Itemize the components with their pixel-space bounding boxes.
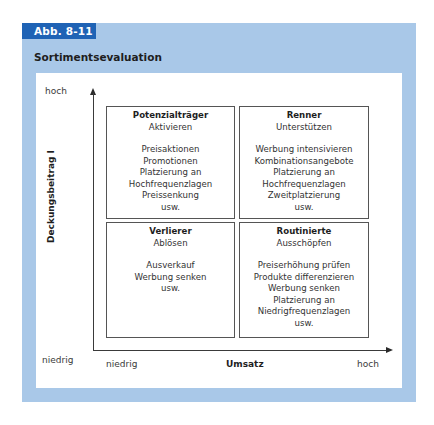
quadrant-item: Promotionen: [107, 156, 234, 168]
x-axis-arrow-icon: [386, 347, 393, 353]
quadrant-strategy: Aktivieren: [107, 122, 234, 134]
y-axis-low-label: niedrig: [42, 355, 73, 365]
quadrant-item: Werbung senken: [107, 272, 234, 284]
quadrant-item: Kombinationsangebote: [240, 156, 368, 168]
quadrant-name: Potenzialträger: [107, 110, 234, 122]
quadrant-potenzialtraeger: Potenzialträger Aktivieren Preisaktionen…: [106, 106, 235, 219]
quadrant-verlierer: Verlierer Ablösen Ausverkauf Werbung sen…: [106, 222, 235, 338]
quadrant-strategy: Ausschöpfen: [240, 238, 368, 250]
quadrant-renner: Renner Unterstützen Werbung intensiviere…: [239, 106, 369, 219]
quadrant-item: usw.: [240, 318, 368, 330]
quadrant-name: Routinierte: [240, 226, 368, 238]
x-axis-high-label: hoch: [357, 359, 379, 369]
spacer: [107, 133, 234, 144]
quadrant-item: Werbung intensivieren: [240, 144, 368, 156]
quadrant-item: Preiserhöhung prüfen: [240, 260, 368, 272]
figure-title: Sortimentsevaluation: [34, 51, 162, 63]
quadrant-item: Platzierung an: [240, 295, 368, 307]
x-axis-title: Umsatz: [226, 359, 264, 369]
quadrant-item: Preisaktionen: [107, 144, 234, 156]
quadrant-strategy: Unterstützen: [240, 122, 368, 134]
quadrant-item: Preissenkung: [107, 190, 234, 202]
quadrant-item: Werbung senken: [240, 283, 368, 295]
figure-frame: Abb. 8-11 Sortimentsevaluation hoch nied…: [22, 23, 416, 402]
quadrant-item: Ausverkauf: [107, 260, 234, 272]
quadrant-item: usw.: [107, 202, 234, 214]
spacer: [240, 249, 368, 260]
quadrant-item: Zweitplatzierung: [240, 190, 368, 202]
quadrant-item: Niedrigfrequenzlagen: [240, 306, 368, 318]
quadrant-name: Verlierer: [107, 226, 234, 238]
y-axis-title: Deckungsbeitrag I: [46, 150, 56, 243]
quadrant-item: Platzierung an: [107, 167, 234, 179]
quadrant-item: usw.: [240, 202, 368, 214]
quadrant-strategy: Ablösen: [107, 238, 234, 250]
figure-number-tab: Abb. 8-11: [22, 23, 96, 39]
y-axis-high-label: hoch: [45, 86, 67, 96]
quadrant-item: Produkte differenzieren: [240, 272, 368, 284]
quadrant-item: Platzierung an: [240, 167, 368, 179]
quadrant-item: Hochfrequenzlagen: [107, 179, 234, 191]
quadrant-item: Hochfrequenzlagen: [240, 179, 368, 191]
x-axis-low-label: niedrig: [106, 359, 137, 369]
quadrant-name: Renner: [240, 110, 368, 122]
quadrant-routinierte: Routinierte Ausschöpfen Preiserhöhung pr…: [239, 222, 369, 338]
spacer: [240, 133, 368, 144]
x-axis: [93, 350, 389, 351]
spacer: [107, 249, 234, 260]
y-axis: [93, 93, 94, 351]
diagram-panel: hoch niedrig niedrig hoch Umsatz Deckung…: [36, 73, 402, 388]
quadrant-item: usw.: [107, 283, 234, 295]
